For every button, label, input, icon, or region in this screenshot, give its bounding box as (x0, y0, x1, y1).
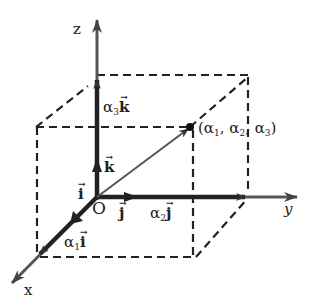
y-axis-label: y (284, 202, 292, 217)
point-coordinates-label: (α1, α2, α3) (198, 121, 276, 138)
vector-diagram: z y x O →k →j →i α3→k α2→j α1→i (α1, α2,… (0, 0, 328, 305)
j-unit-label: →j (119, 206, 124, 221)
edge-bottom-right (196, 199, 247, 257)
diagram-svg (0, 0, 328, 305)
z-axis-label: z (73, 22, 81, 37)
a3k-label: α3→k (103, 100, 129, 117)
x-axis-label: x (24, 283, 32, 298)
box-dashed-edges (36, 75, 248, 257)
axes (12, 20, 297, 283)
a2j-label: α2→j (150, 206, 171, 223)
point-marker (186, 123, 194, 131)
edge-top-left (36, 86, 88, 127)
a1i-label: α1→i (64, 235, 86, 252)
i-unit-label: →i (78, 187, 84, 202)
k-unit-label: →k (104, 160, 114, 175)
origin-label: O (92, 200, 106, 217)
k-unit-head (92, 158, 102, 172)
